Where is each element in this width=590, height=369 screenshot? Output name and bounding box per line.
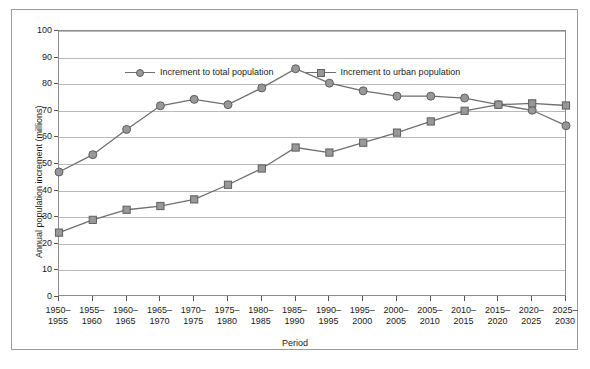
data-point	[55, 168, 63, 176]
series-line-total	[59, 69, 566, 172]
x-axis-tick-label: 2025– 2030	[543, 305, 587, 327]
data-point	[326, 149, 333, 156]
y-axis-tick-label: 30	[10, 211, 52, 221]
data-point	[562, 102, 569, 109]
y-axis-tick-label: 10	[10, 264, 52, 274]
data-point	[258, 165, 265, 172]
data-point	[156, 102, 164, 110]
x-axis-title: Period	[0, 338, 590, 348]
circle-marker-icon	[125, 67, 155, 77]
data-point	[529, 100, 536, 107]
square-marker-icon	[306, 67, 336, 77]
data-point	[224, 181, 231, 188]
y-axis-tick-label: 100	[10, 25, 52, 35]
y-axis-tick-label: 60	[10, 131, 52, 141]
data-point	[55, 229, 62, 236]
legend-label-urban: Increment to urban population	[341, 67, 461, 77]
y-axis-tick-label: 20	[10, 238, 52, 248]
data-point	[224, 101, 232, 109]
chart-legend: Increment to total population Increment …	[125, 67, 460, 77]
data-point	[292, 144, 299, 151]
data-point	[89, 216, 96, 223]
data-point	[461, 107, 468, 114]
y-axis-title: Annual population increment (millions)	[34, 105, 44, 258]
y-axis-tick-label: 40	[10, 185, 52, 195]
data-point	[123, 206, 130, 213]
data-point	[427, 92, 435, 100]
y-axis-tick-label: 70	[10, 105, 52, 115]
data-point	[495, 101, 502, 108]
data-point	[123, 125, 131, 133]
data-point	[393, 129, 400, 136]
y-axis-tick-label: 0	[10, 291, 52, 301]
data-point	[393, 92, 401, 100]
data-point	[427, 118, 434, 125]
data-point	[258, 84, 266, 92]
data-point	[562, 122, 570, 130]
data-point	[89, 151, 97, 159]
y-axis-tick-label: 80	[10, 78, 52, 88]
data-point	[528, 106, 536, 114]
data-point	[325, 79, 333, 87]
data-point	[359, 87, 367, 95]
plot-area: Increment to total population Increment …	[58, 30, 566, 296]
data-point	[157, 202, 164, 209]
chart-figure: Annual population increment (millions) P…	[0, 0, 590, 369]
data-point	[190, 95, 198, 103]
legend-label-total: Increment to total population	[160, 67, 274, 77]
legend-item-urban: Increment to urban population	[306, 67, 461, 77]
data-point	[191, 196, 198, 203]
y-axis-tick-label: 50	[10, 158, 52, 168]
y-axis-tick-label: 90	[10, 52, 52, 62]
data-point	[461, 94, 469, 102]
data-point	[360, 139, 367, 146]
legend-item-total: Increment to total population	[125, 67, 274, 77]
